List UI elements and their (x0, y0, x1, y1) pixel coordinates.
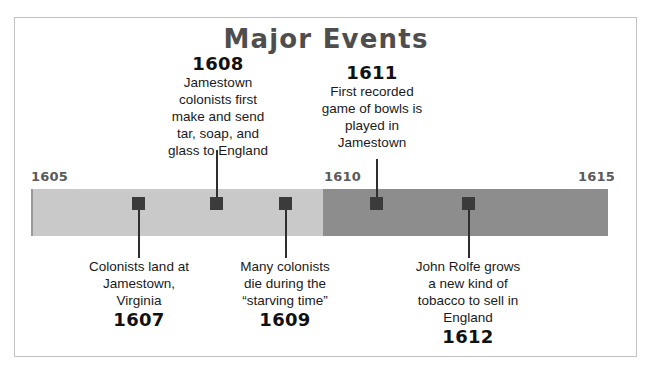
axis-tick-1610: 1610 (324, 169, 361, 184)
event-description: Colonists land at Jamestown, Virginia (70, 258, 208, 309)
event-label-1608: 1608 Jamestown colonists first make and … (146, 55, 290, 159)
page-title: Major Events (0, 24, 652, 54)
timeline-marker-1608 (210, 197, 223, 210)
event-description: Many colonists die during the “starving … (221, 258, 349, 309)
event-label-1609: Many colonists die during the “starving … (221, 258, 349, 328)
event-description: John Rolfe grows a new kind of tobacco t… (398, 258, 538, 326)
event-stem-1609 (285, 210, 287, 258)
event-year: 1612 (398, 328, 538, 345)
event-label-1612: John Rolfe grows a new kind of tobacco t… (398, 258, 538, 345)
event-year: 1609 (221, 311, 349, 328)
event-label-1611: 1611 First recorded game of bowls is pla… (305, 64, 439, 151)
event-description: First recorded game of bowls is played i… (305, 83, 439, 151)
timeline-marker-1609 (279, 197, 292, 210)
event-label-1607: Colonists land at Jamestown, Virginia 16… (70, 258, 208, 328)
infographic-canvas: Major Events 1608 Jamestown colonists fi… (0, 0, 652, 369)
axis-tick-1605: 1605 (31, 169, 68, 184)
event-stem-1607 (138, 210, 140, 258)
event-stem-1611 (376, 159, 378, 198)
event-stem-1612 (468, 210, 470, 258)
event-year: 1611 (305, 64, 439, 81)
axis-tick-1615: 1615 (578, 169, 615, 184)
event-stem-1608 (216, 150, 218, 198)
timeline-marker-1611 (370, 197, 383, 210)
event-description: Jamestown colonists first make and send … (146, 74, 290, 159)
timeline-marker-1607 (132, 197, 145, 210)
event-year: 1608 (146, 55, 290, 72)
event-year: 1607 (70, 311, 208, 328)
timeline-marker-1612 (462, 197, 475, 210)
timeline-bar (31, 189, 608, 236)
timeline-start-tick (31, 189, 33, 236)
